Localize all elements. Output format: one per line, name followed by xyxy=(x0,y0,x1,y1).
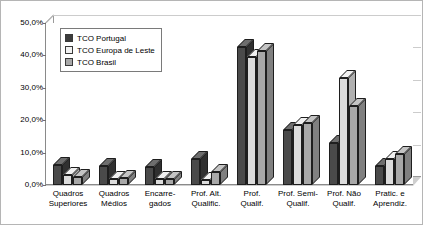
bar-face xyxy=(191,159,200,185)
bar[interactable] xyxy=(247,57,256,185)
x-axis-label-line: Prof. Semi- xyxy=(275,189,321,199)
x-axis-label: Prof.Qualif. xyxy=(229,189,275,209)
chart-container: 0,0%10,0%20,0%30,0%40,0%50,0% QuadrosSup… xyxy=(0,0,423,225)
y-tick-50: 50,0% xyxy=(1,19,43,20)
bar-face xyxy=(237,47,246,185)
bar[interactable] xyxy=(109,179,118,185)
y-tick-label: 10,0% xyxy=(3,149,43,157)
legend-item[interactable]: TCO Portugal xyxy=(65,32,155,44)
x-axis-label-line: Prof. Alt. xyxy=(183,189,229,199)
bar-group xyxy=(237,23,266,185)
bar[interactable] xyxy=(211,172,220,185)
bar-face xyxy=(99,166,108,185)
bar-face xyxy=(73,177,82,185)
bar-side xyxy=(266,43,274,185)
bar[interactable] xyxy=(155,179,164,185)
bar[interactable] xyxy=(63,175,72,185)
bar-face xyxy=(257,51,266,185)
chart-legend[interactable]: TCO PortugalTCO Europa de LesteTCO Brasi… xyxy=(60,28,162,72)
x-axis-label: QuadrosSuperiores xyxy=(45,189,91,209)
x-axis-label-line: Encarre- xyxy=(137,189,183,199)
x-axis-label-line: Quadros xyxy=(91,189,137,199)
bar[interactable] xyxy=(303,123,312,185)
x-axis-label: Encarre-gados xyxy=(137,189,183,209)
legend-swatch-icon xyxy=(65,46,73,54)
x-axis-label-line: Quadros xyxy=(45,189,91,199)
bar-group xyxy=(375,23,404,185)
bar[interactable] xyxy=(385,159,394,185)
bar[interactable] xyxy=(73,177,82,185)
bar[interactable] xyxy=(375,166,384,185)
x-axis-label-line: Qualif. xyxy=(275,199,321,209)
bar[interactable] xyxy=(201,180,210,185)
y-tick-0: 0,0% xyxy=(1,181,43,182)
bar[interactable] xyxy=(349,106,358,185)
bar[interactable] xyxy=(119,178,128,185)
bar-face xyxy=(145,167,154,185)
bar-face xyxy=(119,178,128,185)
x-axis-label-line: Médios xyxy=(91,199,137,209)
x-axis-label: Prof. NãoQualif. xyxy=(321,189,367,209)
y-tick-label: 20,0% xyxy=(3,116,43,124)
bar-group xyxy=(329,23,358,185)
bar-face xyxy=(303,123,312,185)
y-tick-30: 30,0% xyxy=(1,84,43,85)
x-axis-label-line: Prof. Não xyxy=(321,189,367,199)
bar[interactable] xyxy=(283,130,292,185)
bar-face xyxy=(339,78,348,185)
legend-label: TCO Portugal xyxy=(77,34,126,43)
bar[interactable] xyxy=(53,165,62,185)
bar-group xyxy=(283,23,312,185)
x-axis-label-line: Qualif. xyxy=(229,199,275,209)
y-tick-40: 40,0% xyxy=(1,51,43,52)
x-axis-label-line: gados xyxy=(137,199,183,209)
x-axis-label-line: Qualific. xyxy=(183,199,229,209)
bar-face xyxy=(293,125,302,185)
bar-face xyxy=(395,154,404,185)
bar-face xyxy=(329,143,338,185)
bar-face xyxy=(385,159,394,185)
legend-label: TCO Brasil xyxy=(77,58,116,67)
bar-face xyxy=(375,166,384,185)
x-axis-label: Prof. Semi-Qualif. xyxy=(275,189,321,209)
gridline-50 xyxy=(53,15,421,16)
x-axis-label: Prof. Alt.Qualific. xyxy=(183,189,229,209)
bar[interactable] xyxy=(339,78,348,185)
bar[interactable] xyxy=(145,167,154,185)
bar-face xyxy=(201,180,210,185)
x-axis-label-line: Pratic. e xyxy=(367,189,413,199)
y-tick-label: 50,0% xyxy=(3,19,43,27)
legend-item[interactable]: TCO Europa de Leste xyxy=(65,44,155,56)
legend-item[interactable]: TCO Brasil xyxy=(65,56,155,68)
bar-face xyxy=(53,165,62,185)
bar-face xyxy=(349,106,358,185)
y-tick-10: 10,0% xyxy=(1,149,43,150)
x-axis-label: QuadrosMédios xyxy=(91,189,137,209)
bar[interactable] xyxy=(191,159,200,185)
bar[interactable] xyxy=(395,154,404,185)
bar-face xyxy=(283,130,292,185)
y-tick-mark xyxy=(43,185,46,186)
y-tick-label: 0,0% xyxy=(3,181,43,189)
bar-face xyxy=(211,172,220,185)
bar[interactable] xyxy=(293,125,302,185)
legend-swatch-icon xyxy=(65,34,73,42)
y-tick-label: 40,0% xyxy=(3,51,43,59)
x-axis-label-line: Prof. xyxy=(229,189,275,199)
bar-face xyxy=(165,179,174,185)
bar[interactable] xyxy=(165,179,174,185)
x-axis-labels: QuadrosSuperioresQuadrosMédiosEncarre-ga… xyxy=(45,189,421,223)
bar[interactable] xyxy=(257,51,266,185)
y-tick-label: 30,0% xyxy=(3,84,43,92)
x-axis-label-line: Superiores xyxy=(45,199,91,209)
bar[interactable] xyxy=(329,143,338,185)
bar-face xyxy=(109,179,118,185)
x-axis-label-line: Qualif. xyxy=(321,199,367,209)
bar[interactable] xyxy=(99,166,108,185)
bar-side xyxy=(312,115,320,185)
bar-face xyxy=(247,57,256,185)
x-axis-label: Pratic. eAprendiz. xyxy=(367,189,413,209)
bar-group xyxy=(191,23,220,185)
bar[interactable] xyxy=(237,47,246,185)
x-axis-label-line: Aprendiz. xyxy=(367,199,413,209)
